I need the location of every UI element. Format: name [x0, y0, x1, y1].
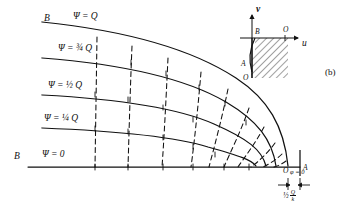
streamline-psi-three-quarter-Q	[42, 58, 276, 166]
marker-baseline-A: A	[303, 164, 308, 172]
dimension-fraction: Q k	[290, 189, 296, 203]
equipotential-9	[263, 154, 282, 167]
dimension-numerator: Q	[290, 189, 296, 196]
marker-baseline-O: O	[283, 167, 288, 175]
inset-axis-v-label: v	[256, 5, 260, 15]
streamline-label-psi-Q: Ψ = Q	[73, 12, 98, 22]
hatched-region	[251, 38, 288, 78]
dimension-coefficient: ½	[283, 191, 289, 200]
streamline-label-psi-half-Q: Ψ = ½ Q	[48, 81, 82, 91]
inset-point-B: B	[255, 28, 260, 36]
hodograph-inset	[240, 14, 299, 78]
streamline-label-psi-quarter-Q: Ψ = ¼ Q	[44, 114, 78, 124]
marker-bottom-left-B: B	[14, 152, 20, 162]
equipotential-8	[251, 143, 275, 167]
streamline-label-psi-zero: Ψ = 0	[42, 150, 65, 160]
inset-point-O-origin: O	[243, 74, 248, 82]
equipotential-1	[95, 37, 97, 167]
figure-canvas: B Ψ = Q Ψ = ¾ Q Ψ = ½ Q Ψ = ¼ Q B Ψ = 0 …	[0, 0, 360, 217]
equipotential-3	[162, 58, 168, 167]
figure-label: (b)	[325, 68, 336, 77]
flow-net-drawing	[0, 0, 360, 217]
inset-point-A: A	[241, 60, 246, 68]
inset-axis-u-label: u	[302, 39, 307, 49]
dimension-denominator: k	[290, 196, 296, 202]
inset-point-O-axis: O	[283, 26, 288, 34]
dimension-label: ½ Q k	[283, 189, 296, 203]
streamline-psi-quarter-Q	[42, 128, 256, 166]
intersection-ticks	[95, 60, 249, 170]
streamline-label-psi-three-quarter-Q: Ψ = ¾ Q	[58, 44, 92, 54]
marker-top-left-B: B	[44, 14, 50, 24]
